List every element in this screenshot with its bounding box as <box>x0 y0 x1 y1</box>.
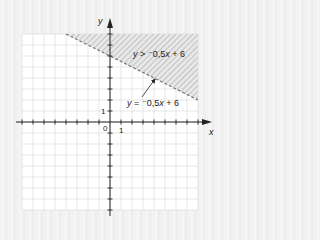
x-unit-label: 1 <box>119 126 124 135</box>
inequality-label: y > ⁻0,5x + 6 <box>132 49 185 59</box>
y-axis-arrowhead <box>107 18 113 28</box>
boundary-equation-label: y = ⁻0,5x + 6 <box>126 98 179 108</box>
y-unit-label: 1 <box>101 107 106 116</box>
x-axis-arrowhead <box>202 119 212 125</box>
x-axis-label: x <box>208 127 214 137</box>
y-axis-label: y <box>97 16 103 26</box>
coordinate-plane: y x 0 1 1 y > ⁻0,5x + 6 y = ⁻0,5x + 6 <box>0 0 231 232</box>
origin-label: 0 <box>103 124 108 133</box>
